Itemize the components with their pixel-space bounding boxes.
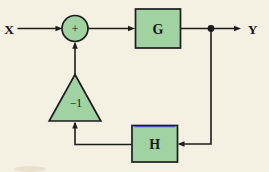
inverter-gain-label: −1: [70, 97, 82, 109]
feedback-block-label: H: [149, 137, 160, 152]
block-diagram-figure: X Y + G H −1: [0, 0, 269, 172]
output-label: Y: [248, 22, 258, 37]
forward-block-label: G: [153, 22, 164, 37]
scan-artifact-smudge: [14, 166, 46, 172]
summing-junction-plus-symbol: +: [71, 22, 78, 36]
input-label: X: [4, 22, 14, 37]
pickoff-node-dot: [208, 25, 215, 32]
